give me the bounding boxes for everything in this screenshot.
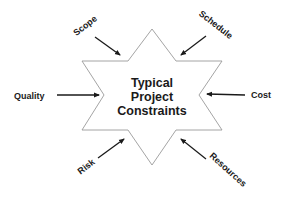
constraint-cost: Cost — [207, 90, 271, 100]
constraint-quality: Quality — [14, 91, 99, 101]
constraint-schedule: Schedule — [181, 8, 235, 55]
risk-label: Risk — [76, 156, 98, 176]
center-title-line-2: Project — [131, 90, 174, 104]
scope-label: Scope — [71, 13, 98, 38]
cost-arrow-icon — [207, 94, 245, 95]
constraint-risk: Risk — [76, 139, 124, 176]
risk-arrow-icon — [98, 139, 124, 158]
resources-arrow-icon — [181, 139, 206, 159]
constraint-scope: Scope — [71, 13, 120, 55]
constraint-resources: Resources — [181, 139, 248, 189]
center-title-line-1: Typical — [131, 76, 173, 90]
resources-label: Resources — [208, 151, 249, 189]
project-constraints-diagram: Typical Project Constraints Scope Schedu… — [0, 0, 291, 204]
center-title-line-3: Constraints — [117, 104, 187, 118]
scope-arrow-icon — [95, 37, 120, 55]
quality-label: Quality — [14, 91, 45, 101]
schedule-arrow-icon — [181, 36, 206, 55]
cost-label: Cost — [251, 90, 271, 100]
schedule-label: Schedule — [197, 8, 235, 41]
